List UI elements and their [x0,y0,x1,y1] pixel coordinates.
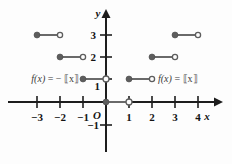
origin-label: O [93,109,101,121]
x-tick-label--3: −3 [31,111,43,123]
open-endpoint-icon [172,54,177,59]
right-equation-body: = ⟦x⟧ [172,73,198,84]
y-axis-label: y [94,7,101,19]
closed-endpoint-icon [103,99,109,105]
x-tick-label-1: 1 [126,111,132,123]
open-endpoint-icon [126,99,132,105]
left-equation-label: f(x) = − ⟦x⟧ [31,73,79,85]
open-endpoint-icon [195,32,200,37]
series-floor [103,32,201,105]
x-tick-label-2: 2 [149,111,155,123]
right-equation-label: f(x) = ⟦x⟧ [158,73,198,85]
left-equation-body: = − ⟦x⟧ [45,73,79,84]
graph-canvas: −3 −2 −1 1 2 3 4 3 2 1 −1 O x y f(x) = −… [0,0,232,164]
x-tick-label--2: −2 [54,111,66,123]
x-tick-label-3: 3 [172,111,178,123]
x-axis-label: x [203,110,210,122]
closed-endpoint-icon [57,54,63,60]
closed-endpoint-icon [172,32,178,38]
x-axis-arrowhead [214,98,223,107]
x-tick-label-4: 4 [195,111,201,123]
open-endpoint-icon [57,32,62,37]
open-endpoint-icon [149,76,154,81]
closed-endpoint-icon [126,76,132,82]
y-tick-label-1: 1 [95,80,101,92]
y-axis-arrowhead [102,9,111,18]
right-equation-function: f(x) [158,73,173,85]
y-tick-label-2: 2 [91,51,97,63]
closed-endpoint-icon [149,54,155,60]
left-equation-function: f(x) [31,73,46,85]
open-endpoint-icon [103,76,109,82]
closed-endpoint-icon [80,76,86,82]
y-tick-label-3: 3 [91,29,97,41]
closed-endpoint-icon [34,32,40,38]
open-endpoint-icon [80,54,85,59]
step-function-figure: −3 −2 −1 1 2 3 4 3 2 1 −1 O x y f(x) = −… [0,0,232,164]
